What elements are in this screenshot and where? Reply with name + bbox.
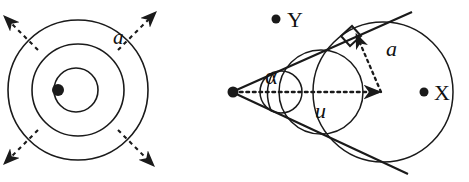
left-panel: a bbox=[6, 14, 154, 164]
apex-dot bbox=[228, 87, 239, 98]
radius-a-dotted-arrow bbox=[357, 36, 381, 92]
label-y: Y bbox=[287, 7, 303, 32]
figure-svg: a a α u X bbox=[0, 0, 469, 182]
label-a-right: a bbox=[386, 36, 397, 61]
point-y-dot bbox=[272, 15, 281, 24]
center-dot bbox=[52, 84, 64, 96]
right-panel: a α u X Y bbox=[228, 7, 454, 174]
arrow-down-left bbox=[6, 130, 38, 162]
upper-tangent-line bbox=[232, 12, 412, 92]
outer-circle bbox=[8, 20, 148, 160]
label-a-left: a bbox=[113, 25, 124, 49]
middle-circle bbox=[32, 44, 124, 136]
arrow-up-left bbox=[6, 18, 38, 50]
arrow-down-right bbox=[118, 130, 152, 164]
point-x-dot bbox=[420, 88, 429, 97]
label-u: u bbox=[315, 98, 326, 123]
label-x: X bbox=[434, 80, 450, 105]
label-alpha: α bbox=[265, 64, 277, 89]
figure-canvas: a a α u X bbox=[0, 0, 469, 182]
